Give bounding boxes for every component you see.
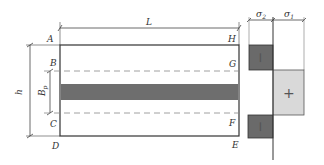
label-L: L [145, 17, 152, 27]
label-H: H [227, 34, 236, 44]
sign-bottom: − [253, 121, 269, 133]
sign-top: − [253, 52, 269, 64]
label-Bp: Bp [37, 85, 49, 97]
label-B: B [49, 58, 57, 68]
label-F: F [228, 118, 236, 128]
dimension-L: L [58, 17, 241, 45]
label-sigma1: σ1 [284, 9, 294, 20]
label-D: D [51, 141, 59, 151]
sign-mid: + [283, 85, 295, 101]
label-G: G [229, 59, 236, 69]
label-sigma2: σ2 [256, 9, 266, 20]
label-h: h [14, 89, 24, 95]
stress-diagram: L h Bp A B C D H G F E σ2 σ1 − [0, 0, 324, 165]
label-E: E [231, 140, 239, 150]
label-C: C [50, 119, 57, 129]
dimension-Bp: Bp [37, 69, 53, 115]
reinforcement-band [61, 84, 238, 100]
label-A: A [46, 34, 54, 44]
